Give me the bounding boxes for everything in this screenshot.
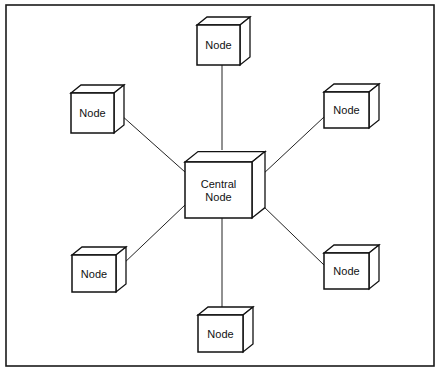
edge-central-upper-right xyxy=(262,117,324,175)
edge-central-upper-left xyxy=(121,115,185,172)
node-label: Node xyxy=(205,39,231,51)
node-upper-right[interactable]: Node xyxy=(324,84,379,128)
nodes-group: NodeNodeNodeNodeNodeNodeCentralNode xyxy=(71,17,379,352)
edge-central-lower-left xyxy=(122,205,185,265)
cube-side-face xyxy=(252,152,265,218)
node-top[interactable]: Node xyxy=(197,17,250,65)
node-label: Node xyxy=(79,107,105,119)
star-topology-diagram: NodeNodeNodeNodeNodeNodeCentralNode xyxy=(0,0,439,372)
node-label: Node xyxy=(207,328,233,340)
cube-side-face xyxy=(240,17,250,65)
node-label: Node xyxy=(333,265,359,277)
node-upper-left[interactable]: Node xyxy=(71,85,124,133)
node-label: Central xyxy=(201,178,236,190)
cube-side-face xyxy=(369,84,379,128)
node-lower-left[interactable]: Node xyxy=(72,247,126,292)
node-bottom[interactable]: Node xyxy=(198,307,253,352)
edge-central-lower-right xyxy=(262,205,324,265)
cube-side-face xyxy=(369,245,379,289)
cube-side-face xyxy=(243,307,253,352)
cube-side-face xyxy=(114,85,124,133)
node-lower-right[interactable]: Node xyxy=(324,245,379,289)
node-label: Node xyxy=(205,191,231,203)
central-node[interactable]: CentralNode xyxy=(185,152,265,218)
node-label: Node xyxy=(333,104,359,116)
cube-side-face xyxy=(116,247,126,292)
node-label: Node xyxy=(81,268,107,280)
